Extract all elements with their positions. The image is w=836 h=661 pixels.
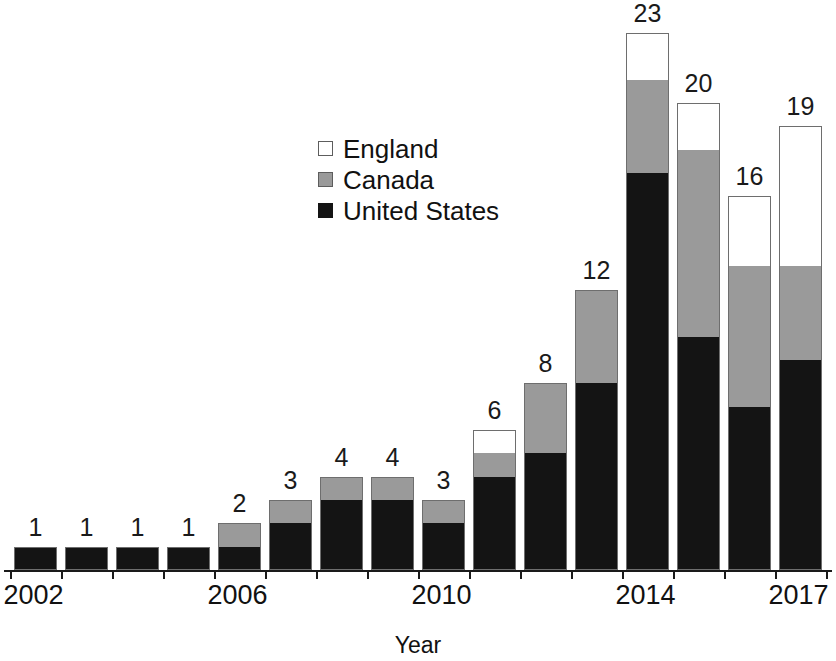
legend-item-united-states: United States: [318, 195, 499, 226]
x-axis-tick: [520, 570, 522, 579]
segment-united-states: [116, 547, 159, 570]
x-axis-tick: [10, 570, 12, 579]
bar-2003[interactable]: [65, 547, 108, 570]
segment-canada: [320, 477, 363, 500]
bar-2013[interactable]: [575, 290, 618, 570]
segment-canada: [422, 500, 465, 523]
bar-stack: [677, 103, 720, 570]
segment-united-states: [626, 173, 669, 570]
bar-stack: [422, 500, 465, 570]
x-axis-tick: [673, 570, 675, 579]
bar-total-label: 2: [233, 491, 247, 516]
legend-label-canada: Canada: [343, 167, 434, 193]
bar-2010[interactable]: [422, 500, 465, 570]
segment-canada: [626, 80, 669, 173]
bar-2006[interactable]: [218, 523, 261, 570]
bar-stack: [167, 547, 210, 570]
bar-total-label: 1: [29, 515, 43, 540]
bar-stack: [524, 383, 567, 570]
bar-total-label: 1: [131, 515, 145, 540]
bar-stack: [116, 547, 159, 570]
x-axis-title: Year: [0, 632, 836, 659]
bar-stack: [371, 477, 414, 570]
x-axis-tick: [112, 570, 114, 579]
bar-total-label: 4: [386, 445, 400, 470]
segment-united-states: [320, 500, 363, 570]
segment-united-states: [65, 547, 108, 570]
bar-total-label: 20: [685, 71, 713, 96]
segment-canada: [779, 266, 822, 359]
segment-united-states: [728, 407, 771, 570]
bar-2012[interactable]: [524, 383, 567, 570]
segment-united-states: [422, 523, 465, 570]
x-axis-tick: [775, 570, 777, 579]
bar-2011[interactable]: [473, 430, 516, 570]
legend-swatch-united-states-icon: [318, 203, 333, 218]
bar-2005[interactable]: [167, 547, 210, 570]
bar-stack: [626, 33, 669, 570]
bar-stack: [14, 547, 57, 570]
segment-united-states: [677, 337, 720, 571]
bar-total-label: 4: [335, 445, 349, 470]
x-axis-tick-label-2002: 2002: [3, 582, 63, 609]
legend-item-canada: Canada: [318, 164, 499, 195]
segment-united-states: [14, 547, 57, 570]
segment-united-states: [575, 383, 618, 570]
x-axis-tick: [163, 570, 165, 579]
segment-canada: [677, 150, 720, 337]
bar-total-label: 1: [80, 515, 94, 540]
bar-2015[interactable]: [677, 103, 720, 570]
bar-stack: [473, 430, 516, 570]
segment-united-states: [371, 500, 414, 570]
bar-stack: [728, 196, 771, 570]
x-axis-tick: [367, 570, 369, 579]
x-axis-tick-label-2014: 2014: [615, 582, 675, 609]
bar-2008[interactable]: [320, 477, 363, 570]
legend-label-england: England: [343, 136, 438, 162]
segment-united-states: [524, 453, 567, 570]
bar-stack: [779, 126, 822, 570]
segment-england: [728, 196, 771, 266]
bar-total-label: 1: [182, 515, 196, 540]
segment-canada: [728, 266, 771, 406]
bar-2004[interactable]: [116, 547, 159, 570]
x-axis-tick: [469, 570, 471, 579]
legend-swatch-england-icon: [318, 141, 333, 156]
bar-2009[interactable]: [371, 477, 414, 570]
bar-total-label: 3: [437, 468, 451, 493]
legend-item-england: England: [318, 133, 499, 164]
segment-england: [677, 103, 720, 150]
bar-total-label: 3: [284, 468, 298, 493]
segment-united-states: [269, 523, 312, 570]
segment-canada: [524, 383, 567, 453]
bar-total-label: 19: [787, 94, 815, 119]
bar-2017[interactable]: [779, 126, 822, 570]
bar-total-label: 8: [539, 351, 553, 376]
segment-united-states: [473, 477, 516, 570]
segment-canada: [269, 500, 312, 523]
bar-2002[interactable]: [14, 547, 57, 570]
segment-canada: [371, 477, 414, 500]
segment-england: [473, 430, 516, 453]
bar-total-label: 6: [488, 398, 502, 423]
bar-2007[interactable]: [269, 500, 312, 570]
x-axis-tick: [622, 570, 624, 579]
segment-england: [626, 33, 669, 80]
bar-2014[interactable]: [626, 33, 669, 570]
bar-stack: [575, 290, 618, 570]
legend-label-united-states: United States: [343, 198, 499, 224]
stacked-bar-chart: 20022006201020142017 Year England Canada…: [0, 0, 836, 661]
bar-stack: [269, 500, 312, 570]
segment-canada: [575, 290, 618, 383]
bar-stack: [65, 547, 108, 570]
x-axis-tick-label-2017: 2017: [768, 582, 828, 609]
bar-total-label: 23: [634, 1, 662, 26]
x-axis-tick: [724, 570, 726, 579]
x-axis-tick: [316, 570, 318, 579]
segment-canada: [473, 453, 516, 476]
bar-2016[interactable]: [728, 196, 771, 570]
x-axis-tick: [61, 570, 63, 579]
x-axis-tick-label-2010: 2010: [411, 582, 471, 609]
legend-swatch-canada-icon: [318, 172, 333, 187]
x-axis-tick: [418, 570, 420, 579]
